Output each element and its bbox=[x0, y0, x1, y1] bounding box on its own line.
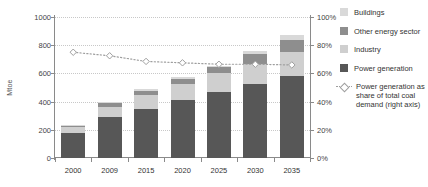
legend-item-share-series[interactable]: Power generation as share of total coal … bbox=[340, 82, 428, 109]
y-axis-tick-label: 0 bbox=[1, 154, 51, 163]
share-line-marker bbox=[143, 58, 149, 64]
legend-item-label: Industry bbox=[354, 45, 428, 54]
color-swatch-icon bbox=[340, 27, 348, 35]
color-swatch-icon bbox=[340, 8, 348, 16]
line-series-layer bbox=[55, 17, 310, 158]
x-axis-tick-label: 2035 bbox=[272, 166, 312, 175]
x-axis-tick-mark bbox=[55, 158, 56, 162]
color-swatch-icon bbox=[340, 45, 348, 53]
x-axis-tick-label: 2025 bbox=[199, 166, 239, 175]
chart-root: Mtoe 02004006008001000 0%20%40%60%80%100… bbox=[0, 0, 428, 187]
dotted-line-diamond-marker-icon bbox=[336, 82, 352, 91]
x-axis-tick-mark bbox=[201, 158, 202, 162]
x-axis-tick-mark bbox=[274, 158, 275, 162]
legend-item-power-generation[interactable]: Power generation bbox=[340, 64, 428, 73]
x-axis-tick-mark bbox=[128, 158, 129, 162]
x-axis-tick-mark bbox=[310, 158, 311, 162]
legend-item-industry[interactable]: Industry bbox=[340, 45, 428, 54]
share-line-marker bbox=[106, 53, 112, 59]
legend-item-label: Power generation bbox=[354, 64, 428, 73]
share-line-marker bbox=[70, 49, 76, 55]
secondary-y-axis-tick-mark bbox=[310, 130, 314, 131]
secondary-y-axis-line bbox=[310, 15, 311, 160]
share-line-marker bbox=[216, 61, 222, 67]
legend: BuildingsOther energy sectorIndustryPowe… bbox=[340, 8, 428, 119]
plot-area: 02004006008001000 0%20%40%60%80%100% 200… bbox=[55, 17, 310, 158]
secondary-y-axis-tick-mark bbox=[310, 45, 314, 46]
x-axis-tick-label: 2015 bbox=[126, 166, 166, 175]
secondary-y-axis-tick-mark bbox=[310, 17, 314, 18]
share-line-marker bbox=[252, 61, 258, 67]
legend-item-other-energy-sector[interactable]: Other energy sector bbox=[340, 27, 428, 36]
x-axis-tick-label: 2020 bbox=[163, 166, 203, 175]
secondary-y-axis-tick-mark bbox=[310, 73, 314, 74]
share-line-marker bbox=[179, 60, 185, 66]
legend-series-label: Power generation as share of total coal … bbox=[356, 82, 428, 109]
x-axis-tick-label: 2030 bbox=[235, 166, 275, 175]
x-axis-tick-mark bbox=[164, 158, 165, 162]
secondary-y-axis-tick-label: 20% bbox=[317, 126, 357, 135]
legend-item-label: Buildings bbox=[354, 8, 428, 17]
x-axis-tick-label: 2009 bbox=[90, 166, 130, 175]
y-axis-tick-label: 400 bbox=[1, 98, 51, 107]
legend-item-label: Other energy sector bbox=[354, 27, 428, 36]
share-line-marker bbox=[289, 62, 295, 68]
x-axis-tick-mark bbox=[91, 158, 92, 162]
color-swatch-icon bbox=[340, 64, 348, 72]
y-axis-tick-label: 600 bbox=[1, 69, 51, 78]
x-axis-tick-mark bbox=[237, 158, 238, 162]
secondary-y-axis-tick-label: 0% bbox=[317, 154, 357, 163]
y-axis-tick-label: 200 bbox=[1, 126, 51, 135]
y-axis-tick-label: 800 bbox=[1, 41, 51, 50]
legend-item-buildings[interactable]: Buildings bbox=[340, 8, 428, 17]
x-axis-tick-label: 2000 bbox=[53, 166, 93, 175]
secondary-y-axis-tick-mark bbox=[310, 102, 314, 103]
y-axis-tick-label: 1000 bbox=[1, 13, 51, 22]
